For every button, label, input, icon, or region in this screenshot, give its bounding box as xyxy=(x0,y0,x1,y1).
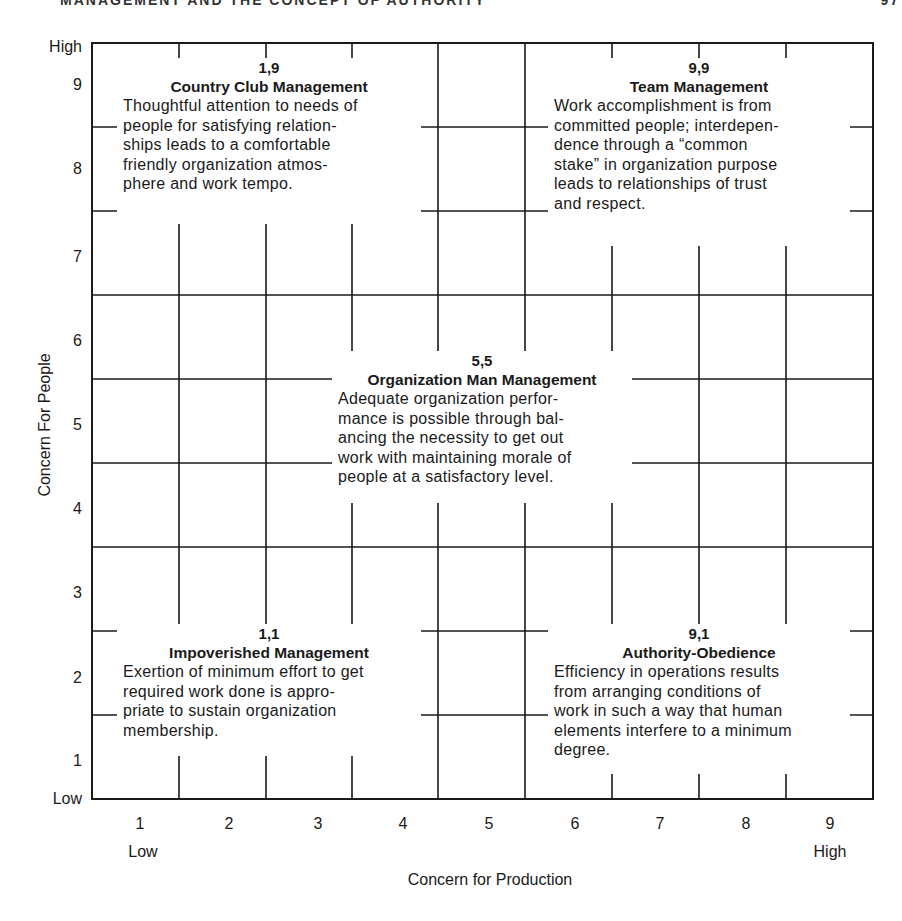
style-code: 9,9 xyxy=(554,58,844,77)
desc-line: required work done is appro- xyxy=(123,682,415,702)
x-tick-8: 8 xyxy=(726,815,766,833)
y-tick-1: 1 xyxy=(40,752,82,770)
y-axis-low-label: Low xyxy=(40,790,82,808)
desc-line: Work accomplishment is from xyxy=(554,96,844,116)
desc-line: people at a satisfactory level. xyxy=(338,467,626,487)
x-tick-2: 2 xyxy=(209,815,249,833)
y-axis-high-label: High xyxy=(40,38,82,56)
x-tick-4: 4 xyxy=(383,815,423,833)
style-code: 1,1 xyxy=(123,624,415,643)
style-code: 5,5 xyxy=(338,351,626,370)
style-description: Efficiency in operations results from ar… xyxy=(554,662,844,760)
desc-line: leads to relationships of trust xyxy=(554,174,844,194)
y-tick-6: 6 xyxy=(40,332,82,350)
desc-line: and respect. xyxy=(554,194,844,214)
desc-line: stake” in organization purpose xyxy=(554,155,844,175)
style-title: Country Club Management xyxy=(123,77,415,96)
y-tick-3: 3 xyxy=(40,584,82,602)
desc-line: from arranging conditions of xyxy=(554,682,844,702)
x-axis-title: Concern for Production xyxy=(0,871,902,889)
y-tick-2: 2 xyxy=(40,669,82,687)
y-tick-7: 7 xyxy=(40,248,82,266)
style-title: Impoverished Management xyxy=(123,643,415,662)
desc-line: friendly organization atmos- xyxy=(123,155,415,175)
x-tick-6: 6 xyxy=(555,815,595,833)
desc-line: membership. xyxy=(123,721,415,741)
desc-line: mance is possible through bal- xyxy=(338,409,626,429)
desc-line: committed people; interdepen- xyxy=(554,116,844,136)
x-tick-9: 9 xyxy=(810,815,850,833)
x-tick-3: 3 xyxy=(298,815,338,833)
y-tick-9: 9 xyxy=(40,76,82,94)
desc-line: Adequate organization perfor- xyxy=(338,389,626,409)
desc-line: Efficiency in operations results xyxy=(554,662,844,682)
desc-line: Thoughtful attention to needs of xyxy=(123,96,415,116)
desc-line: work with maintaining morale of xyxy=(338,448,626,468)
style-box-9-9: 9,9 Team Management Work accomplishment … xyxy=(548,58,850,246)
desc-line: Exertion of minimum effort to get xyxy=(123,662,415,682)
desc-line: work in such a way that human xyxy=(554,701,844,721)
style-box-1-1: 1,1 Impoverished Management Exertion of … xyxy=(117,624,421,756)
style-title: Team Management xyxy=(554,77,844,96)
style-box-9-1: 9,1 Authority-Obedience Efficiency in op… xyxy=(548,624,850,774)
desc-line: ships leads to a comfortable xyxy=(123,135,415,155)
desc-line: phere and work tempo. xyxy=(123,174,415,194)
desc-line: priate to sustain organization xyxy=(123,701,415,721)
x-axis-high-label: High xyxy=(814,843,847,861)
style-box-1-9: 1,9 Country Club Management Thoughtful a… xyxy=(117,58,421,224)
x-axis-low-label: Low xyxy=(128,843,157,861)
y-tick-4: 4 xyxy=(40,500,82,518)
style-title: Authority-Obedience xyxy=(554,643,844,662)
desc-line: elements interfere to a minimum xyxy=(554,721,844,741)
style-description: Exertion of minimum effort to get requir… xyxy=(123,662,415,740)
style-description: Work accomplishment is from committed pe… xyxy=(554,96,844,213)
y-axis-title: Concern For People xyxy=(36,353,54,496)
desc-line: ancing the necessity to get out xyxy=(338,428,626,448)
style-code: 9,1 xyxy=(554,624,844,643)
y-tick-8: 8 xyxy=(40,160,82,178)
x-tick-7: 7 xyxy=(640,815,680,833)
desc-line: dence through a “common xyxy=(554,135,844,155)
style-description: Thoughtful attention to needs of people … xyxy=(123,96,415,194)
desc-line: degree. xyxy=(554,740,844,760)
x-tick-1: 1 xyxy=(120,815,160,833)
style-description: Adequate organization perfor- mance is p… xyxy=(338,389,626,487)
style-title: Organization Man Management xyxy=(338,370,626,389)
x-tick-5: 5 xyxy=(469,815,509,833)
style-code: 1,9 xyxy=(123,58,415,77)
desc-line: people for satisfying relation- xyxy=(123,116,415,136)
style-box-5-5: 5,5 Organization Man Management Adequate… xyxy=(332,351,632,503)
